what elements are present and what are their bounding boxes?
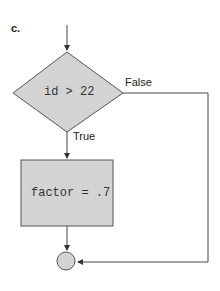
- process-text: factor = .7: [31, 186, 110, 200]
- true-label: True: [73, 130, 95, 142]
- false-label: False: [125, 76, 152, 88]
- connector-circle: [57, 252, 75, 270]
- figure-label: c.: [11, 22, 20, 34]
- flowchart: [0, 0, 220, 291]
- decision-text: id > 22: [44, 85, 94, 99]
